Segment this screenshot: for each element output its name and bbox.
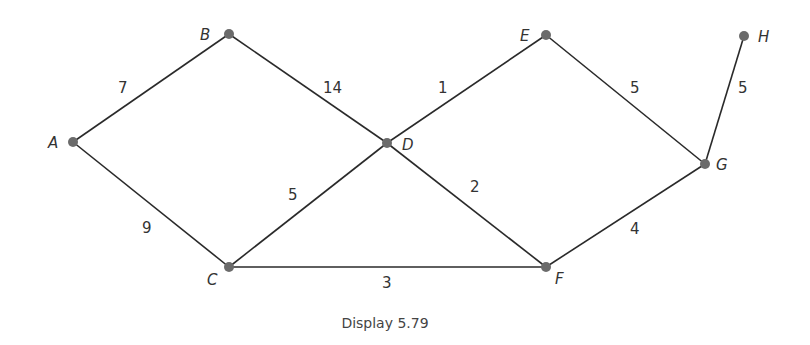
edge-AC: [73, 142, 229, 267]
edge-FG: [546, 164, 705, 267]
vertex-label-B: B: [200, 26, 210, 44]
edge-weight-AC: 9: [142, 219, 152, 237]
vertex-H: [739, 31, 749, 41]
edge-GH: [705, 36, 744, 164]
vertex-label-F: F: [555, 270, 564, 288]
edge-weight-CF: 3: [382, 274, 392, 292]
vertex-B: [224, 29, 234, 39]
edge-DF: [387, 143, 546, 267]
vertices: ABCDEFGH: [47, 26, 769, 289]
weighted-graph: 71495123545 ABCDEFGH: [0, 0, 810, 345]
edge-BD: [229, 34, 387, 143]
vertex-label-G: G: [716, 156, 728, 174]
edge-EG: [546, 35, 705, 164]
vertex-D: [382, 138, 392, 148]
vertex-label-A: A: [47, 134, 58, 152]
edge-weight-DF: 2: [470, 178, 480, 196]
edges: 71495123545: [73, 34, 748, 292]
vertex-G: [700, 159, 710, 169]
vertex-E: [541, 30, 551, 40]
edge-weight-FG: 4: [630, 220, 640, 238]
vertex-label-H: H: [758, 28, 769, 46]
edge-weight-BD: 14: [323, 79, 342, 97]
vertex-label-E: E: [520, 27, 530, 45]
edge-DE: [387, 35, 546, 143]
edge-weight-GH: 5: [738, 79, 748, 97]
vertex-label-C: C: [207, 271, 218, 289]
edge-weight-AB: 7: [118, 79, 128, 97]
edge-weight-EG: 5: [630, 79, 640, 97]
vertex-A: [68, 137, 78, 147]
edge-weight-DE: 1: [438, 79, 448, 97]
edge-weight-CD: 5: [288, 186, 298, 204]
edge-CD: [229, 143, 387, 267]
edge-AB: [73, 34, 229, 142]
vertex-label-D: D: [402, 136, 414, 154]
vertex-C: [224, 262, 234, 272]
vertex-F: [541, 262, 551, 272]
figure-caption: Display 5.79: [0, 315, 770, 331]
